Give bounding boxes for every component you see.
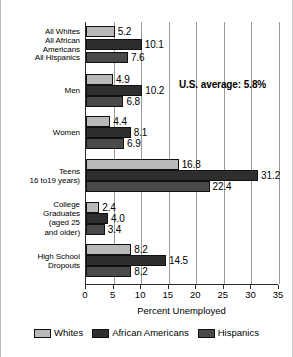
bar-value-label: 5.2 <box>118 27 132 37</box>
bar-value-label: 8.2 <box>134 245 148 255</box>
bar-row: 5.2 <box>86 26 279 37</box>
bar-row: 31.2 <box>86 170 279 181</box>
bar-value-label: 6.9 <box>127 139 141 149</box>
bar-value-label: 8.1 <box>134 128 148 138</box>
bar-row: 6.9 <box>86 138 279 149</box>
bar-value-label: 7.6 <box>131 53 145 63</box>
bar-value-label: 14.5 <box>169 256 188 266</box>
x-axis-label: Percent Unemployed <box>85 305 278 316</box>
bar <box>86 96 123 107</box>
bar-group: 8.214.58.2 <box>86 244 278 277</box>
chart-figure: 5.210.17.64.910.26.84.48.16.916.831.222.… <box>0 0 293 357</box>
plot-area: 5.210.17.64.910.26.84.48.16.916.831.222.… <box>85 22 278 285</box>
bar-group: 16.831.222.4 <box>86 159 278 192</box>
bar <box>86 138 124 149</box>
bar-value-label: 16.8 <box>182 160 201 170</box>
bar <box>86 116 110 127</box>
bar <box>86 244 131 255</box>
bar <box>86 127 131 138</box>
bar <box>86 39 142 50</box>
bar <box>86 26 115 37</box>
bar <box>86 159 179 170</box>
legend-label: Whites <box>54 328 83 338</box>
bar <box>86 213 108 224</box>
x-axis-tick-label: 30 <box>238 290 262 300</box>
bar-row: 4.4 <box>86 116 279 127</box>
bar <box>86 52 128 63</box>
bar <box>86 181 210 192</box>
x-axis-tick-label: 20 <box>183 290 207 300</box>
bar-row: 8.2 <box>86 266 279 277</box>
bar-row: 3.4 <box>86 224 279 235</box>
category-label: Women <box>53 128 80 137</box>
category-label: High School Dropouts <box>37 252 80 270</box>
bar <box>86 74 113 85</box>
legend-item: Whites <box>34 328 83 338</box>
bar <box>86 202 99 213</box>
category-label: Teens 16 to19 years) <box>30 167 80 185</box>
chart-legend: WhitesAfrican AmericansHispanics <box>1 328 292 338</box>
bar-value-label: 4.4 <box>113 117 127 127</box>
bar-row: 4.0 <box>86 213 279 224</box>
x-axis-tick-label: 10 <box>128 290 152 300</box>
bar-value-label: 4.9 <box>116 75 130 85</box>
legend-item: Hispanics <box>198 328 259 338</box>
bar-row: 22.4 <box>86 181 279 192</box>
bar-row: 8.1 <box>86 127 279 138</box>
bar-value-label: 8.2 <box>134 267 148 277</box>
x-axis-tick-label: 25 <box>211 290 235 300</box>
bar <box>86 224 105 235</box>
bar-row: 8.2 <box>86 244 279 255</box>
legend-label: Hispanics <box>218 328 259 338</box>
category-label: All Hispanics <box>35 53 80 62</box>
bar-value-label: 2.4 <box>102 203 116 213</box>
category-label: College Graduates (aged 25 and older) <box>43 200 80 237</box>
bar-group: 7.6 <box>86 52 278 63</box>
bar-value-label: 4.0 <box>111 214 125 224</box>
legend-swatch <box>92 329 109 338</box>
legend-item: African Americans <box>92 328 189 338</box>
x-axis-tick-label: 5 <box>101 290 125 300</box>
bar-row: 10.1 <box>86 39 279 50</box>
bar-group: 5.2 <box>86 26 278 37</box>
bar-row: 2.4 <box>86 202 279 213</box>
bar <box>86 266 131 277</box>
bar-row: 14.5 <box>86 255 279 266</box>
legend-swatch <box>198 329 215 338</box>
bar-value-label: 10.1 <box>145 40 164 50</box>
legend-label: African Americans <box>112 328 189 338</box>
category-label: Men <box>65 86 80 95</box>
bar-value-label: 6.8 <box>126 97 140 107</box>
bar-value-label: 31.2 <box>261 171 280 181</box>
bar-value-label: 10.2 <box>145 86 164 96</box>
bar-row: 6.8 <box>86 96 279 107</box>
x-axis-tick-label: 0 <box>73 290 97 300</box>
bar <box>86 255 166 266</box>
bar-value-label: 22.4 <box>213 182 232 192</box>
gridline <box>279 22 280 284</box>
x-axis-tick-label: 35 <box>266 290 290 300</box>
x-axis-tick-label: 15 <box>156 290 180 300</box>
bar-group: 10.1 <box>86 39 278 50</box>
bar <box>86 170 258 181</box>
bar-value-label: 3.4 <box>108 225 122 235</box>
legend-swatch <box>34 329 51 338</box>
bar-row: 16.8 <box>86 159 279 170</box>
bar-group: 2.44.03.4 <box>86 202 278 235</box>
us-average-annotation: U.S. average: 5.8% <box>179 79 266 90</box>
category-label: All African Americans <box>43 36 80 54</box>
bar <box>86 85 142 96</box>
bar-group: 4.48.16.9 <box>86 116 278 149</box>
bar-row: 7.6 <box>86 52 279 63</box>
